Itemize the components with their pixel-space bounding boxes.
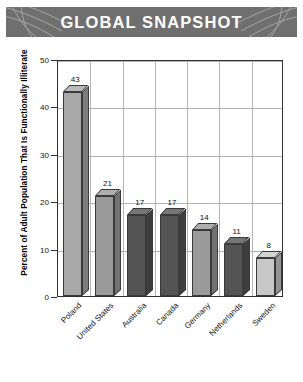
bar-canada[interactable] bbox=[160, 215, 179, 296]
bar-poland[interactable] bbox=[63, 92, 82, 296]
bar-sweden[interactable] bbox=[256, 258, 275, 296]
bar-front-face bbox=[192, 230, 211, 296]
bar-value-label: 43 bbox=[60, 75, 90, 84]
global-snapshot-banner: GLOBAL SNAPSHOT bbox=[6, 7, 297, 37]
page-title: GLOBAL SNAPSHOT bbox=[6, 7, 297, 37]
bar-side-face bbox=[146, 209, 153, 296]
y-axis-tick bbox=[51, 297, 57, 298]
y-axis-tick bbox=[51, 202, 57, 203]
y-axis-tick-label: 50 bbox=[33, 56, 49, 65]
bar-united-states[interactable] bbox=[95, 196, 114, 296]
bar-value-label: 21 bbox=[92, 179, 122, 188]
y-axis-tick-label: 20 bbox=[33, 198, 49, 207]
bar-value-label: 17 bbox=[125, 198, 155, 207]
gridline-vertical bbox=[252, 61, 253, 296]
y-axis-title: Percent of Adult Population That Is Func… bbox=[20, 43, 29, 283]
bar-value-label: 14 bbox=[189, 213, 219, 222]
bar-side-face bbox=[82, 86, 89, 296]
bar-side-face bbox=[114, 190, 121, 296]
y-axis-tick bbox=[51, 155, 57, 156]
gridline-vertical bbox=[187, 61, 188, 296]
gridline-vertical bbox=[219, 61, 220, 296]
bar-front-face bbox=[63, 92, 82, 296]
bar-germany[interactable] bbox=[192, 230, 211, 296]
gridline-horizontal bbox=[58, 108, 282, 109]
bar-front-face bbox=[95, 196, 114, 296]
gridline-vertical bbox=[155, 61, 156, 296]
illiteracy-bar-chart: Percent of Adult Population That Is Func… bbox=[0, 40, 303, 382]
bar-side-face bbox=[243, 238, 250, 296]
bar-front-face bbox=[224, 244, 243, 296]
bar-front-face bbox=[256, 258, 275, 296]
y-axis-tick-label: 10 bbox=[33, 245, 49, 254]
gridline-horizontal bbox=[58, 156, 282, 157]
gridline-horizontal bbox=[58, 61, 282, 62]
bar-value-label: 8 bbox=[254, 241, 284, 250]
bar-netherlands[interactable] bbox=[224, 244, 243, 296]
y-axis-tick-label: 40 bbox=[33, 103, 49, 112]
gridline-vertical bbox=[123, 61, 124, 296]
bar-front-face bbox=[160, 215, 179, 296]
bar-side-face bbox=[211, 223, 218, 296]
y-axis-tick-label: 0 bbox=[33, 293, 49, 302]
y-axis-tick bbox=[51, 60, 57, 61]
bar-value-label: 17 bbox=[157, 198, 187, 207]
bar-side-face bbox=[275, 252, 282, 296]
y-axis-tick-label: 30 bbox=[33, 150, 49, 159]
bar-value-label: 11 bbox=[222, 227, 252, 236]
bar-side-face bbox=[179, 209, 186, 296]
y-axis-tick bbox=[51, 107, 57, 108]
y-axis-tick bbox=[51, 250, 57, 251]
plot-area bbox=[57, 60, 283, 297]
gridline-vertical bbox=[90, 61, 91, 296]
bar-australia[interactable] bbox=[127, 215, 146, 296]
bar-front-face bbox=[127, 215, 146, 296]
